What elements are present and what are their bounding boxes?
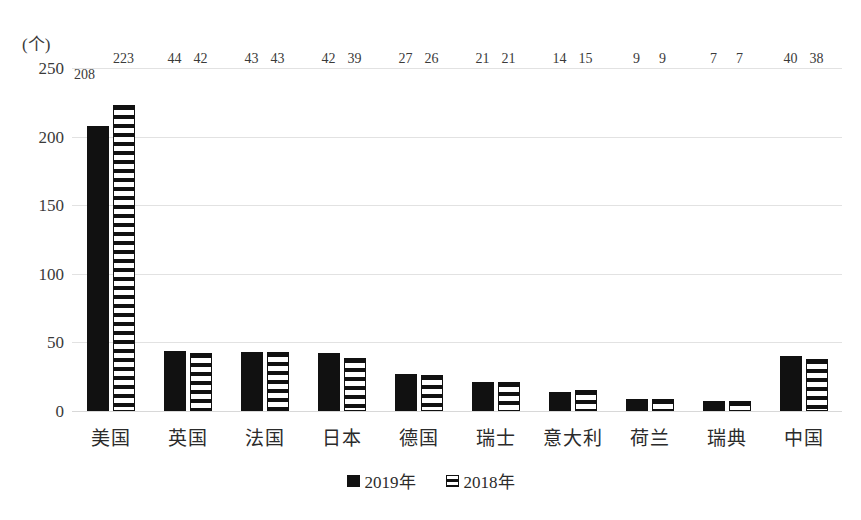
bar-column: 42 [318, 68, 340, 411]
bar-value-label: 208 [74, 68, 95, 82]
bar: 21 [472, 382, 494, 411]
bar-column: 223 [113, 68, 135, 411]
bar: 7 [703, 401, 725, 411]
bar-value-label: 21 [476, 52, 490, 66]
y-axis-tick-label: 50 [18, 334, 64, 351]
bar-value-label: 43 [271, 52, 285, 66]
bar: 39 [344, 358, 366, 412]
bar-column: 26 [421, 68, 443, 411]
x-axis-label: 日本 [303, 423, 380, 450]
y-axis-unit-label: (个) [22, 30, 50, 55]
bar-group: 4442 [149, 68, 226, 411]
bar-column: 42 [190, 68, 212, 411]
bar-column: 43 [267, 68, 289, 411]
x-axis-label: 瑞士 [457, 423, 534, 450]
bar: 7 [729, 401, 751, 411]
bar-value-label: 40 [784, 52, 798, 66]
bar-value-label: 7 [710, 52, 717, 66]
bar-column: 44 [164, 68, 186, 411]
x-axis-label: 荷兰 [611, 423, 688, 450]
bar-value-label: 14 [553, 52, 567, 66]
bar-value-label: 9 [633, 52, 640, 66]
y-axis-tick-labels: 050100150200250 [14, 68, 64, 411]
bar: 21 [498, 382, 520, 411]
bar-group: 208223 [72, 68, 149, 411]
y-axis-tick-label: 0 [18, 403, 64, 420]
bar-value-label: 9 [659, 52, 666, 66]
x-axis-label: 中国 [765, 423, 842, 450]
bar-column: 43 [241, 68, 263, 411]
bar: 15 [575, 390, 597, 411]
bar: 9 [652, 399, 674, 411]
bar-column: 40 [780, 68, 802, 411]
bar-column: 9 [652, 68, 674, 411]
solid-square-icon [347, 475, 360, 487]
bar-group: 4038 [765, 68, 842, 411]
bar-column: 15 [575, 68, 597, 411]
bar-value-label: 223 [113, 52, 134, 66]
x-axis-label: 美国 [72, 423, 149, 450]
bar-column: 39 [344, 68, 366, 411]
bar-group: 4239 [303, 68, 380, 411]
bar-column: 14 [549, 68, 571, 411]
y-axis-tick-label: 150 [18, 197, 64, 214]
bar-value-label: 21 [502, 52, 516, 66]
y-axis-tick-label: 100 [18, 265, 64, 282]
bar-group: 2121 [457, 68, 534, 411]
y-axis-tick-label: 200 [18, 128, 64, 145]
x-axis-category-labels: 美国英国法国日本德国瑞士意大利荷兰瑞典中国 [72, 423, 842, 450]
bar-value-label: 27 [399, 52, 413, 66]
x-axis-label: 英国 [149, 423, 226, 450]
bar-column: 208 [87, 68, 109, 411]
bar-column: 9 [626, 68, 648, 411]
bar: 38 [806, 359, 828, 411]
bar: 223 [113, 105, 135, 411]
legend-item[interactable]: 2018年 [446, 468, 515, 493]
bar: 43 [267, 352, 289, 411]
bar-value-label: 42 [322, 52, 336, 66]
legend-label: 2018年 [464, 468, 515, 493]
y-axis-tick-label: 250 [18, 60, 64, 77]
bar: 27 [395, 374, 417, 411]
bar: 208 [87, 126, 109, 411]
bar-column: 7 [729, 68, 751, 411]
striped-square-icon [446, 475, 459, 487]
bar: 40 [780, 356, 802, 411]
legend-label: 2019年 [365, 468, 416, 493]
bar-group: 2726 [380, 68, 457, 411]
bar-column: 7 [703, 68, 725, 411]
x-axis-baseline [72, 411, 842, 412]
bar-group: 1415 [534, 68, 611, 411]
bar: 44 [164, 351, 186, 411]
bar: 43 [241, 352, 263, 411]
bar: 9 [626, 399, 648, 411]
bar: 14 [549, 392, 571, 411]
bar: 42 [318, 353, 340, 411]
legend-item[interactable]: 2019年 [347, 468, 416, 493]
bar-value-label: 44 [168, 52, 182, 66]
x-axis-label: 法国 [226, 423, 303, 450]
bar-value-label: 39 [348, 52, 362, 66]
x-axis-label: 瑞典 [688, 423, 765, 450]
x-axis-label: 意大利 [534, 423, 611, 450]
bar-value-label: 26 [425, 52, 439, 66]
bar-group: 77 [688, 68, 765, 411]
bar-group: 4343 [226, 68, 303, 411]
bar: 42 [190, 353, 212, 411]
chart-legend: 2019年2018年 [0, 468, 861, 493]
bar-value-label: 43 [245, 52, 259, 66]
bar-value-label: 42 [194, 52, 208, 66]
bar-value-label: 7 [736, 52, 743, 66]
bar-column: 38 [806, 68, 828, 411]
bar-column: 27 [395, 68, 417, 411]
x-axis-label: 德国 [380, 423, 457, 450]
bar-column: 21 [498, 68, 520, 411]
bar-value-label: 38 [810, 52, 824, 66]
bar: 26 [421, 375, 443, 411]
bar-chart: (个) 050100150200250 20822344424343423927… [0, 0, 861, 520]
bar-groups: 20822344424343423927262121141599774038 [72, 68, 842, 411]
bar-column: 21 [472, 68, 494, 411]
bar-group: 99 [611, 68, 688, 411]
bar-value-label: 15 [579, 52, 593, 66]
